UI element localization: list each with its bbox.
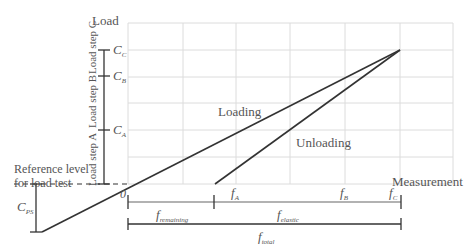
reference-label-line2: for load test <box>14 177 71 189</box>
load-level-cb: CB <box>113 69 126 85</box>
unloading-label: Unloading <box>296 136 351 149</box>
measurement-fc: fC <box>389 186 397 202</box>
diagram-canvas <box>0 0 472 252</box>
load-axis <box>98 50 110 184</box>
axis-x-label: Measurement <box>392 175 463 188</box>
origin-label: 0 <box>120 188 126 200</box>
measurement-dimension <box>128 195 401 209</box>
loading-label: Loading <box>218 105 261 118</box>
grid <box>128 23 453 184</box>
load-step-c-label: Load step C <box>87 21 98 74</box>
load-level-cc: CC <box>113 43 126 59</box>
f-remaining-label: fremaining <box>156 208 188 224</box>
reference-label-line1: Reference level <box>14 163 89 175</box>
preset-label: CPS <box>17 200 33 216</box>
f-elastic-label: felastic <box>277 208 299 224</box>
measurement-fa: fA <box>231 186 239 202</box>
load-step-b-label: Load step B <box>87 75 98 128</box>
f-total-label: ftotal <box>258 230 274 246</box>
load-step-a-label: Load step A <box>87 133 98 186</box>
measurement-fb: fB <box>340 186 348 202</box>
load-level-ca: CA <box>113 123 126 139</box>
